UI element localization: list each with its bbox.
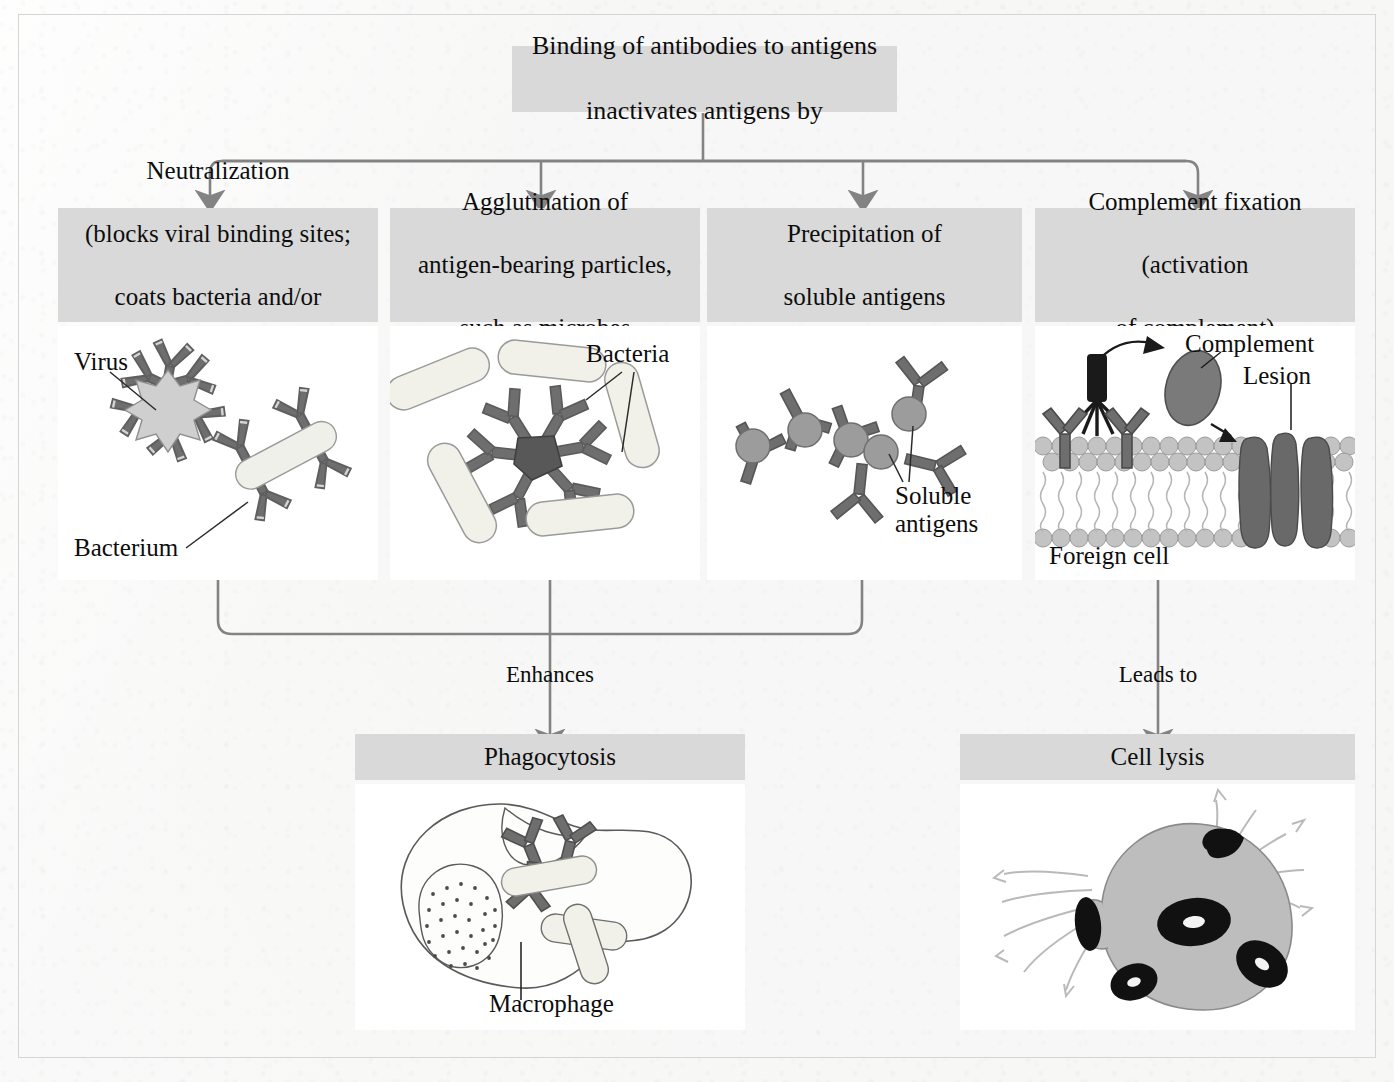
header-line: Neutralization bbox=[58, 155, 378, 187]
illustration-panel-neutralization: Virus Bacterium bbox=[58, 326, 378, 580]
column-header-complement-fixation: Complement fixation (activation of compl… bbox=[1035, 208, 1355, 322]
diagram-page: Binding of antibodies to antigens inacti… bbox=[0, 0, 1394, 1082]
header-line: coats bacteria and/or bbox=[58, 281, 378, 313]
precipitation-illustration bbox=[707, 326, 1022, 580]
header-line: Precipitation of bbox=[707, 218, 1022, 250]
label-macrophage: Macrophage bbox=[489, 990, 614, 1018]
outcome-box-cell-lysis: Cell lysis bbox=[960, 734, 1355, 780]
label-bacteria: Bacteria bbox=[586, 340, 669, 368]
header-line: Complement fixation bbox=[1035, 186, 1355, 218]
bacterium-leader bbox=[186, 502, 248, 548]
outcome-box-phagocytosis: Phagocytosis bbox=[355, 734, 745, 780]
virus-body bbox=[125, 370, 211, 452]
title-line-2: inactivates antigens by bbox=[512, 95, 897, 128]
outcome-label: Cell lysis bbox=[960, 741, 1355, 773]
label-lesion: Lesion bbox=[1243, 362, 1311, 390]
illustration-panel-phagocytosis: Macrophage bbox=[355, 784, 745, 1030]
label-soluble-antigens: Soluble antigens bbox=[895, 482, 1015, 538]
illustration-panel-cell-lysis bbox=[960, 784, 1355, 1030]
column-header-precipitation: Precipitation of soluble antigens bbox=[707, 208, 1022, 322]
flow-label-leads-to: Leads to bbox=[1060, 662, 1256, 688]
label-virus: Virus bbox=[74, 348, 128, 376]
header-line: antigen-bearing particles, bbox=[390, 249, 700, 281]
label-line: antigens bbox=[895, 510, 978, 537]
flow-label-enhances: Enhances bbox=[452, 662, 648, 688]
illustration-panel-precipitation: Soluble antigens bbox=[707, 326, 1022, 580]
header-line: (blocks viral binding sites; bbox=[58, 218, 378, 250]
label-complement: Complement bbox=[1185, 330, 1314, 358]
column-header-agglutination: Agglutination of antigen-bearing particl… bbox=[390, 208, 700, 322]
title-line-1: Binding of antibodies to antigens bbox=[512, 30, 897, 63]
bacterium-complex bbox=[211, 383, 357, 524]
header-line: soluble antigens bbox=[707, 281, 1022, 313]
illustration-panel-agglutination: Bacteria bbox=[390, 326, 700, 580]
title-box: Binding of antibodies to antigens inacti… bbox=[512, 46, 897, 112]
column-header-neutralization: Neutralization (blocks viral binding sit… bbox=[58, 208, 378, 322]
cell-lysis-illustration bbox=[960, 784, 1355, 1030]
lesion-channels bbox=[1239, 433, 1333, 548]
header-line: Agglutination of bbox=[390, 186, 700, 218]
header-line: (activation bbox=[1035, 249, 1355, 281]
label-line: Soluble bbox=[895, 482, 971, 509]
illustration-panel-complement-fixation: Complement Lesion Foreign cell bbox=[1035, 326, 1355, 580]
label-bacterium: Bacterium bbox=[74, 534, 178, 562]
outcome-label: Phagocytosis bbox=[355, 741, 745, 773]
label-foreign-cell: Foreign cell bbox=[1049, 542, 1169, 570]
